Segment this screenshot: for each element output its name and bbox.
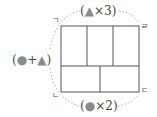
close-paren: ) <box>113 100 118 112</box>
corner-label-top-right: ㄹ <box>141 23 148 31</box>
left-dotted-arc-upper <box>50 25 59 51</box>
circle-icon: ● <box>85 100 95 112</box>
triangle-icon: ▲ <box>37 54 46 66</box>
left-dotted-arc-lower <box>50 68 59 93</box>
bottom-edge-label: ( ● × 2 ) <box>80 100 118 112</box>
bottom-dotted-arc-right <box>118 94 139 106</box>
corner-label-bottom-right: ㄷ <box>141 87 148 95</box>
bottom-dotted-arc-left <box>60 94 80 106</box>
multiply-operator: × <box>95 100 105 112</box>
multiplier-value: 3 <box>104 5 112 17</box>
plus-operator: + <box>27 54 37 66</box>
corner-label-top-left: ㄱ <box>52 17 59 25</box>
top-edge-label: ( ▲ × 3 ) <box>80 5 116 17</box>
top-dotted-arc <box>59 11 80 24</box>
triangle-icon: ▲ <box>85 5 94 17</box>
top-dotted-arc-right <box>119 11 139 23</box>
close-paren: ) <box>46 54 51 66</box>
multiplier-value: 2 <box>105 100 113 112</box>
circle-icon: ● <box>17 54 27 66</box>
left-edge-label: ( ● + ▲ ) <box>12 54 51 66</box>
multiply-operator: × <box>94 5 104 17</box>
close-paren: ) <box>112 5 117 17</box>
corner-label-bottom-left: ㄴ <box>52 92 59 100</box>
